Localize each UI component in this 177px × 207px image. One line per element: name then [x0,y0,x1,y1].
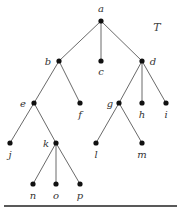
edge-a-d [101,21,142,61]
tree-diagram: abcdefghijklmnop T [0,0,177,207]
edge-k-p [56,143,80,184]
node-k [53,140,58,145]
node-label-j: j [6,149,11,160]
node-label-f: f [77,109,84,120]
edge-e-k [34,103,56,143]
node-label-c: c [98,66,104,77]
edge-a-b [59,21,101,61]
node-p [77,181,82,186]
tree-nodes [7,18,168,186]
node-label-m: m [137,149,146,160]
node-label-d: d [150,56,156,67]
edge-g-l [96,103,119,143]
edge-k-n [33,143,56,184]
node-label-e: e [20,98,26,109]
edge-b-e [34,61,59,103]
node-l [93,140,98,145]
node-c [98,58,103,63]
node-n [30,181,35,186]
node-a [98,18,103,23]
node-i [163,100,168,105]
node-label-b: b [45,56,51,67]
node-label-g: g [107,98,113,109]
edge-e-j [10,103,34,143]
edge-b-f [59,61,80,103]
node-label-p: p [77,190,84,201]
node-h [139,100,144,105]
node-j [7,140,12,145]
node-label-l: l [94,149,97,160]
node-label-i: i [164,109,167,120]
node-label-a: a [98,3,104,14]
tree-title: T [153,21,162,34]
node-g [116,100,121,105]
edge-d-g [119,61,142,103]
node-d [139,58,144,63]
node-f [77,100,82,105]
node-o [53,181,58,186]
edge-d-i [142,61,166,103]
node-label-n: n [30,190,36,201]
node-label-o: o [53,190,59,201]
node-label-h: h [139,109,145,120]
node-b [56,58,61,63]
node-label-k: k [43,138,49,149]
node-e [31,100,36,105]
node-m [139,140,144,145]
